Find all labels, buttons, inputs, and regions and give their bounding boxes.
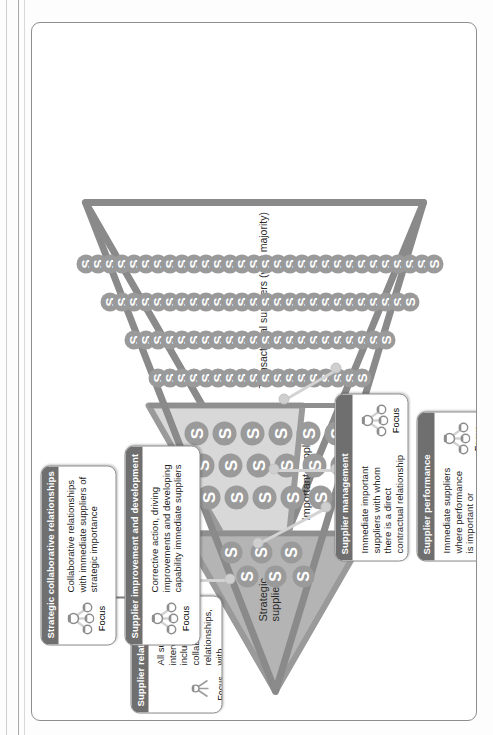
supplier-token: S	[221, 542, 243, 564]
supplier-token: S	[247, 454, 271, 478]
card-body: Immediate important suppliers with whom …	[353, 395, 409, 561]
card-title: Supplier management	[336, 395, 353, 561]
supplier-token: S	[241, 422, 265, 446]
supplier-token: S	[303, 454, 327, 478]
supplier-token: S	[353, 369, 372, 388]
connector-dot	[225, 574, 236, 585]
supplier-token: S	[253, 486, 277, 510]
supplier-token: S	[265, 566, 287, 588]
connector-dot	[279, 394, 290, 405]
card-strategic-collaborative-relationships[interactable]: Strategic collaborative relationships	[41, 466, 117, 646]
supplier-token: S	[401, 293, 420, 312]
supplier-network-icon	[441, 421, 471, 457]
supplier-token: S	[377, 331, 396, 350]
supplier-token: S	[185, 422, 209, 446]
supplier-token: S	[297, 422, 321, 446]
page-gutter-line	[6, 0, 7, 735]
card-supplier-management[interactable]: Supplier management Immediate important …	[335, 394, 409, 562]
card-supplier-performance[interactable]: Supplier performance Immediate suppliers…	[417, 412, 478, 562]
card-body: Focus Collaborative relationships with i…	[59, 467, 113, 645]
card-focus-label: Focus	[472, 426, 478, 452]
card-focus-label: Focus	[215, 676, 222, 701]
supplier-token: S	[237, 566, 259, 588]
supplier-token: S	[213, 422, 237, 446]
page-canvas: Strategic suppliers Important suppliers …	[0, 0, 493, 735]
connector-dot	[331, 363, 342, 374]
card-body: Focus Corrective action, driving improve…	[143, 447, 197, 645]
connector-dot	[321, 502, 332, 513]
connector-dot	[269, 464, 280, 475]
card-focus-label: Focus	[180, 606, 191, 632]
rotated-figure-canvas: Strategic suppliers Important suppliers …	[33, 23, 477, 720]
supplier-token: S	[425, 255, 444, 274]
supplier-token: S	[281, 542, 303, 564]
card-title: Supplier performance	[418, 413, 435, 561]
connector-line	[274, 469, 336, 472]
card-body: Immediate suppliers where performance is…	[435, 413, 478, 561]
page-gutter-line	[24, 0, 25, 735]
card-description: Collaborative relationships with immedia…	[65, 474, 107, 593]
card-description: Corrective action, driving improvements …	[149, 454, 191, 593]
card-title: Supplier improvement and development	[126, 447, 143, 645]
card-description: Immediate important suppliers with whom …	[359, 447, 406, 554]
card-title: Strategic collaborative relationships	[42, 467, 59, 645]
supplier-network-icon	[149, 601, 179, 637]
card-description: Immediate suppliers where performance is…	[441, 465, 478, 554]
supplier-token: S	[281, 486, 305, 510]
page-gutter-line	[18, 0, 19, 735]
card-focus-label: Focus	[390, 408, 401, 434]
supplier-token: S	[293, 566, 315, 588]
supplier-network-icon	[191, 676, 213, 702]
card-focus-label: Focus	[96, 606, 107, 632]
supplier-token: S	[219, 454, 243, 478]
supplier-token: S	[269, 422, 293, 446]
supplier-token: S	[225, 486, 249, 510]
connector-dot	[253, 538, 264, 549]
supplier-network-icon	[65, 601, 95, 637]
supplier-network-icon	[359, 403, 389, 439]
card-supplier-improvement-and-development[interactable]: Supplier improvement and development	[125, 446, 201, 646]
figure-sheet: Strategic suppliers Important suppliers …	[31, 22, 477, 721]
